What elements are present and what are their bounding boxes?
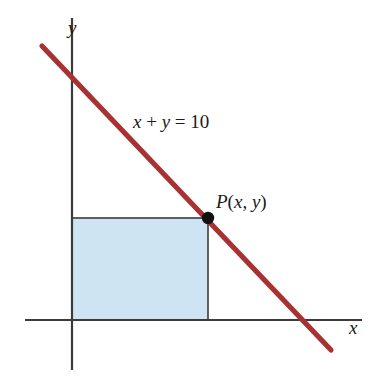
y-axis-label: y	[68, 18, 76, 37]
equation-value: 10	[190, 111, 209, 132]
equation-label: x + y = 10	[133, 112, 209, 131]
point-p-marker	[202, 212, 214, 224]
point-name: P	[216, 191, 228, 212]
point-paren-close: )	[260, 191, 266, 212]
shaded-rectangle	[72, 218, 208, 320]
geometry-figure	[0, 0, 382, 379]
point-p-label: P(x, y)	[216, 192, 267, 211]
figure-canvas: y x x + y = 10 P(x, y)	[0, 0, 382, 379]
x-axis-label: x	[349, 318, 357, 337]
equation-plus-sign: +	[146, 111, 157, 132]
equation-term-y: y	[162, 111, 170, 132]
equation-equals-sign: =	[175, 111, 186, 132]
